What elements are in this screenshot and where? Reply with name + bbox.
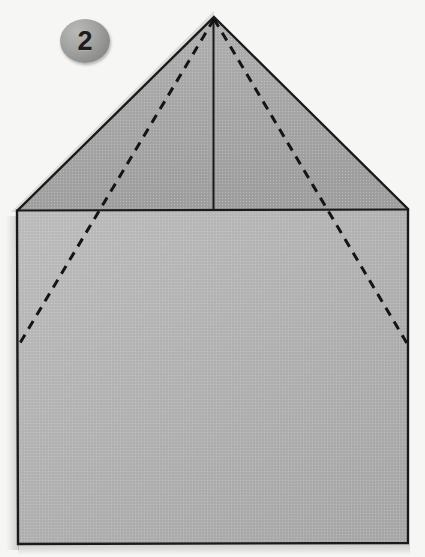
figure-canvas: 2 [0,0,425,557]
step-number-label: 2 [77,28,92,55]
step-number-badge: 2 [60,19,110,63]
origami-diagram-svg [0,0,425,557]
